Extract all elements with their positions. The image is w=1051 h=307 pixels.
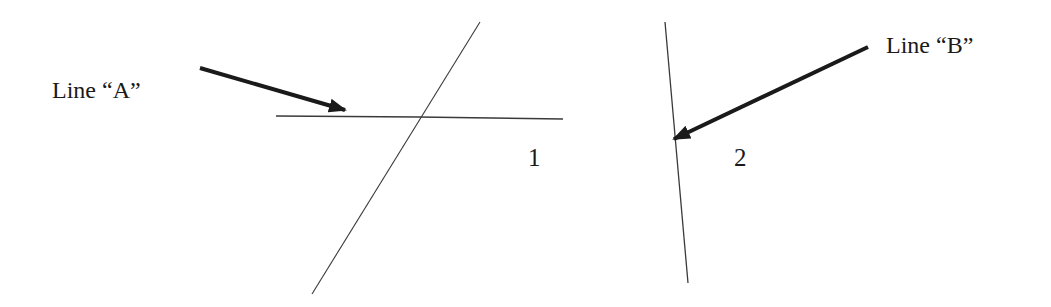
region-2-label: 2: [734, 145, 747, 170]
line-a-label: Line “A”: [52, 78, 141, 102]
arrow-b: [674, 47, 868, 139]
horizontal-line-a-right: [418, 117, 563, 119]
horizontal-line-a: [276, 116, 418, 117]
line-b: [665, 22, 688, 283]
figure-1: [200, 22, 563, 294]
transversal-line: [312, 22, 480, 294]
line-b-label: Line “B”: [886, 33, 973, 57]
figure-2: [665, 22, 868, 283]
region-1-label: 1: [528, 145, 541, 170]
arrow-a: [200, 68, 345, 110]
